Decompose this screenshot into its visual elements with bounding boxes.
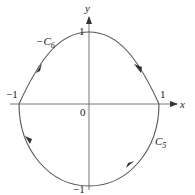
arrow-icon-upper-left: [36, 63, 42, 73]
y-axis-label: y: [84, 2, 90, 14]
x-tick-neg-1: −1: [6, 88, 18, 100]
contour-diagram: y x 0 1 −1 −1 1 −C6 C5: [0, 0, 195, 195]
origin-label: 0: [80, 106, 86, 118]
x-tick-pos-1: 1: [160, 88, 166, 100]
x-axis-label: x: [179, 98, 185, 110]
arrow-icon-lower-right: [126, 161, 134, 168]
diagram-canvas: y x 0 1 −1 −1 1 −C6 C5: [0, 0, 195, 195]
y-tick-neg-1: −1: [73, 183, 85, 195]
curve-label-minus-c6: −C6: [36, 35, 55, 50]
y-tick-pos-1: 1: [79, 25, 85, 37]
curve-label-c5: C5: [155, 135, 166, 150]
